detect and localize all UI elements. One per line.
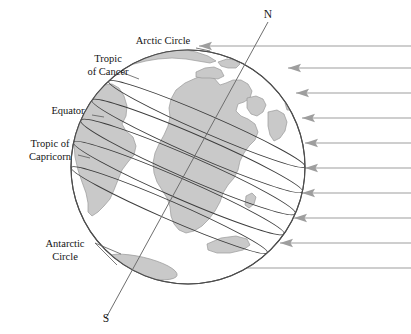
label-equator: Equator xyxy=(51,105,85,116)
north-pole-label: N xyxy=(264,8,273,20)
label-line-1: Tropic xyxy=(94,53,122,64)
diagram-canvas: Arctic CircleTropicof CancerEquatorTropi… xyxy=(0,0,411,334)
label-line-2: Capricorn xyxy=(29,151,72,162)
label-tropic-of-capricorn: Tropic ofCapricorn xyxy=(29,138,72,162)
label-line-1: Tropic of xyxy=(31,138,70,149)
label-arctic-circle: Arctic Circle xyxy=(136,35,191,46)
label-line-1: Antarctic xyxy=(45,238,84,249)
earth-tilt-diagram: Arctic CircleTropicof CancerEquatorTropi… xyxy=(0,0,411,334)
south-pole-label: S xyxy=(103,312,109,324)
label-line-1: Arctic Circle xyxy=(136,35,191,46)
label-line-2: Circle xyxy=(52,251,78,262)
label-line-2: of Cancer xyxy=(87,66,129,77)
label-line-1: Equator xyxy=(51,105,85,116)
